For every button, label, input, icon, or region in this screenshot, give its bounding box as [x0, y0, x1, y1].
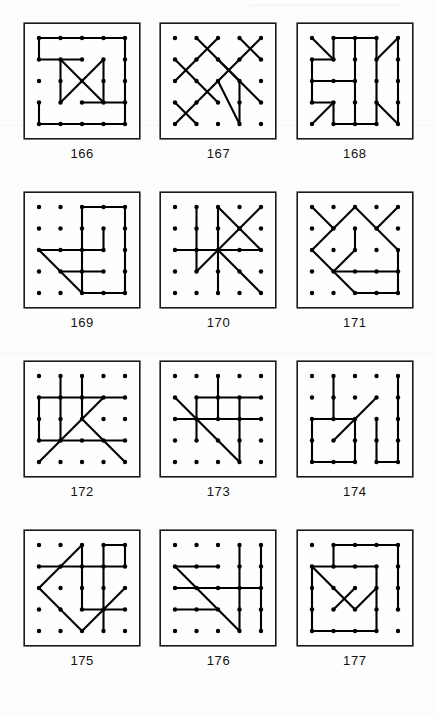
lattice-dot: [58, 122, 62, 126]
puzzle-cell: 169: [14, 191, 150, 360]
lattice-dot: [310, 564, 314, 568]
puzzle-figure-169: [23, 191, 141, 309]
puzzle-panel-175[interactable]: [23, 529, 141, 647]
lattice-dot: [173, 36, 177, 40]
lattice-dot: [58, 269, 62, 273]
puzzle-panel-167[interactable]: [159, 22, 277, 140]
lattice-dot: [331, 122, 335, 126]
lattice-dot: [123, 543, 127, 547]
lattice-dot: [173, 248, 177, 252]
lattice-dot: [101, 122, 105, 126]
lattice-dot: [101, 291, 105, 295]
lattice-dot: [331, 395, 335, 399]
lattice-dot: [374, 374, 378, 378]
lattice-dot: [353, 417, 357, 421]
lattice-dot: [396, 543, 400, 547]
puzzle-panel-170[interactable]: [159, 191, 277, 309]
lattice-dot: [331, 586, 335, 590]
lattice-dot: [80, 269, 84, 273]
lattice-dot: [259, 79, 263, 83]
lattice-dot: [101, 564, 105, 568]
lattice-dot: [58, 57, 62, 61]
lattice-dot: [238, 57, 242, 61]
lattice-dot: [310, 205, 314, 209]
lattice-dot: [259, 586, 263, 590]
lattice-dot: [353, 248, 357, 252]
lattice-dot: [396, 248, 400, 252]
puzzle-figure-174: [296, 360, 414, 478]
lattice-dot: [216, 586, 220, 590]
lattice-dot: [331, 36, 335, 40]
lattice-dot: [310, 79, 314, 83]
lattice-dot: [238, 417, 242, 421]
puzzle-panel-174[interactable]: [296, 360, 414, 478]
lattice-dot: [216, 607, 220, 611]
puzzle-panel-177[interactable]: [296, 529, 414, 647]
lattice-dot: [216, 57, 220, 61]
lattice-dot: [259, 100, 263, 104]
lattice-dot: [216, 395, 220, 399]
lattice-dot: [80, 460, 84, 464]
lattice-dot: [37, 417, 41, 421]
lattice-dot: [310, 57, 314, 61]
puzzle-panel-169[interactable]: [23, 191, 141, 309]
puzzle-cell: 172: [14, 360, 150, 529]
lattice-dot: [58, 564, 62, 568]
lattice-dot: [101, 79, 105, 83]
puzzle-label-177: 177: [343, 654, 367, 667]
puzzle-panel-173[interactable]: [159, 360, 277, 478]
puzzle-panel-176[interactable]: [159, 529, 277, 647]
lattice-dot: [331, 374, 335, 378]
lattice-dot: [374, 564, 378, 568]
lattice-dot: [173, 417, 177, 421]
lattice-dot: [238, 205, 242, 209]
lattice-dot: [58, 460, 62, 464]
lattice-dot: [238, 122, 242, 126]
lattice-dot: [216, 248, 220, 252]
puzzle-figure-168: [296, 22, 414, 140]
lattice-dot: [173, 79, 177, 83]
lattice-dot: [58, 395, 62, 399]
puzzle-label-175: 175: [70, 654, 94, 667]
lattice-dot: [101, 543, 105, 547]
lattice-dot: [331, 564, 335, 568]
lattice-dot: [259, 205, 263, 209]
lattice-dot: [58, 586, 62, 590]
lattice-dot: [396, 291, 400, 295]
lattice-dot: [374, 248, 378, 252]
puzzle-figure-177: [296, 529, 414, 647]
lattice-dot: [310, 460, 314, 464]
puzzle-panel-171[interactable]: [296, 191, 414, 309]
lattice-dot: [353, 460, 357, 464]
lattice-dot: [101, 586, 105, 590]
lattice-dot: [238, 374, 242, 378]
lattice-dot: [123, 564, 127, 568]
lattice-dot: [58, 543, 62, 547]
lattice-dot: [173, 291, 177, 295]
lattice-dot: [353, 57, 357, 61]
lattice-dot: [37, 269, 41, 273]
puzzle-label-169: 169: [70, 316, 94, 329]
lattice-dot: [195, 460, 199, 464]
lattice-dot: [374, 100, 378, 104]
puzzle-panel-172[interactable]: [23, 360, 141, 478]
lattice-dot: [238, 460, 242, 464]
lattice-dot: [123, 374, 127, 378]
lattice-dot: [101, 248, 105, 252]
lattice-dot: [374, 586, 378, 590]
lattice-dot: [259, 57, 263, 61]
lattice-dot: [195, 226, 199, 230]
lattice-dot: [396, 438, 400, 442]
puzzle-figure-171: [296, 191, 414, 309]
lattice-dot: [259, 629, 263, 633]
lattice-dot: [58, 79, 62, 83]
lattice-dot: [331, 629, 335, 633]
lattice-dot: [331, 100, 335, 104]
lattice-dot: [123, 269, 127, 273]
lattice-dot: [238, 564, 242, 568]
lattice-dot: [123, 57, 127, 61]
puzzle-panel-168[interactable]: [296, 22, 414, 140]
lattice-dot: [331, 607, 335, 611]
puzzle-panel-166[interactable]: [23, 22, 141, 140]
puzzle-cell: 167: [150, 22, 286, 191]
